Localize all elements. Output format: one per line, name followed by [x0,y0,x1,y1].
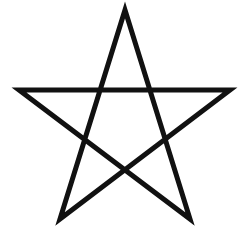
background [0,0,247,234]
pentagram-svg [0,0,247,234]
pentagram-figure [0,0,247,234]
